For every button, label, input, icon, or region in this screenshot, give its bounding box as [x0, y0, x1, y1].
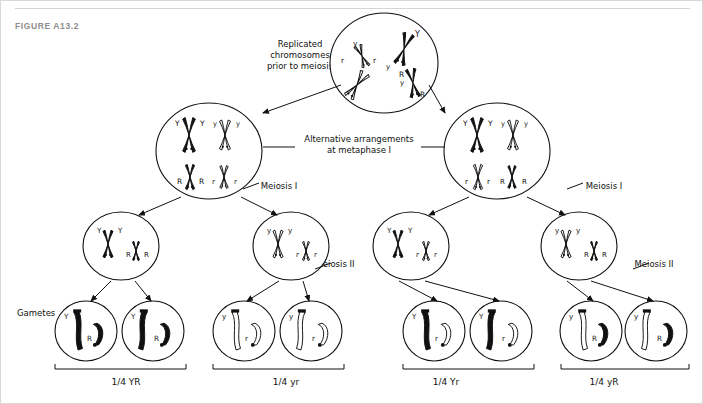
allele-label: y	[576, 226, 581, 235]
chromatid	[138, 309, 147, 350]
flow-arrow	[567, 281, 593, 301]
replicated-chromosome	[471, 118, 484, 153]
replicated-chromosome	[354, 44, 370, 68]
allele-label: R	[154, 334, 159, 343]
chromatid	[160, 323, 170, 347]
allele-label: y	[386, 63, 390, 71]
replicated-chromosome	[185, 164, 194, 189]
chromatid	[486, 309, 495, 350]
allele-label: r	[416, 251, 419, 259]
chromatid	[508, 323, 518, 347]
replicated-chromosome	[508, 166, 516, 189]
flow-arrow	[247, 281, 279, 301]
allele-label: y	[400, 79, 404, 87]
allele-label: r	[434, 251, 437, 259]
replicated-chromosome	[393, 32, 414, 66]
allele-label: R	[87, 334, 92, 343]
chromatid	[231, 309, 240, 350]
flow-arrow	[429, 197, 469, 215]
replicated-chromosome	[132, 241, 139, 260]
gamete-group-yr-cell: yr	[213, 301, 275, 361]
allele-label: R	[420, 90, 425, 99]
gametes-label: Gametes	[17, 308, 55, 318]
allele-label: R	[522, 178, 527, 186]
flow-arrow	[241, 197, 277, 215]
chromatid	[578, 309, 587, 350]
allele-label: R	[399, 70, 404, 79]
chromatid	[641, 309, 650, 350]
meiosis2-cell-1: YYRR	[83, 212, 159, 280]
replicated-chromosome	[422, 241, 429, 260]
allele-label: R	[592, 334, 597, 343]
ratio-label-yr-dom: 1/4 YR	[81, 377, 171, 387]
chromatid	[598, 323, 608, 347]
allele-label: y	[353, 39, 358, 48]
replicated-chromosome	[220, 120, 231, 150]
allele-label: y	[222, 312, 227, 321]
gamete-group-brace	[55, 364, 186, 369]
flow-arrow	[425, 281, 499, 301]
flow-arrow	[399, 281, 437, 301]
gamete-group-YR-cell: YR	[55, 301, 117, 361]
flow-arrow	[139, 197, 181, 215]
chromatid	[73, 309, 82, 350]
gamete-group-brace	[213, 364, 344, 369]
allele-label: y	[634, 312, 639, 321]
allele-label: r	[487, 177, 491, 186]
replicated-chromosome	[508, 120, 519, 150]
allele-label: y	[267, 226, 272, 235]
replicated-chromosome	[590, 241, 597, 260]
replicated-chromosome	[220, 166, 228, 189]
allele-label: Y	[411, 312, 417, 321]
allele-label: r	[314, 251, 317, 259]
allele-label: y	[555, 226, 560, 235]
allele-label: Y	[487, 119, 493, 128]
allele-label: r	[502, 334, 505, 343]
replicated-chromosome	[273, 230, 283, 258]
figure-page: FIGURE A13.2 Replicated chromosomes prio…	[0, 0, 703, 404]
allele-label: R	[126, 251, 131, 259]
chromatid	[93, 323, 103, 347]
allele-label: r	[296, 251, 299, 259]
replicated-chromosome	[561, 230, 571, 258]
gamete-group-brace	[561, 364, 689, 369]
allele-label: R	[602, 251, 607, 259]
chromatid	[251, 323, 261, 347]
flow-arrow	[303, 281, 309, 301]
chromatid	[318, 323, 328, 347]
chromatid	[421, 309, 430, 350]
meiosis-diagram: YyrrRRyyYYyyRRrrYYyyrrRRYYRRyyrrYYrryyRR…	[1, 1, 703, 404]
replicated-chromosome	[393, 230, 403, 258]
allele-label: Y	[414, 30, 420, 39]
allele-label: R	[500, 178, 505, 186]
meiosis2-cell-4: yyRR	[541, 212, 617, 280]
annotation-meiosis-one-right: Meiosis I	[576, 181, 632, 192]
ratio-label-yR: 1/4 yR	[559, 377, 649, 387]
allele-label: Y	[199, 119, 205, 128]
allele-label: Y	[462, 119, 468, 128]
allele-label: Y	[130, 312, 136, 321]
replicated-chromosome	[344, 70, 370, 101]
flow-arrow	[263, 85, 341, 113]
annotation-replicated-chromosomes: Replicated chromosomes prior to meiosis	[259, 39, 341, 72]
allele-label: r	[373, 56, 377, 65]
meiosis2-cell-3: YYrr	[373, 212, 449, 280]
allele-label: Y	[386, 226, 392, 235]
flow-arrow	[527, 197, 565, 215]
allele-label: Y	[478, 312, 484, 321]
top-divider	[15, 8, 690, 9]
allele-label: r	[245, 334, 248, 343]
metaphase-cell-left: YYyyRRrr	[156, 103, 262, 199]
annotation-meiosis-two-right: Meiosis II	[625, 259, 683, 270]
chromatid	[663, 323, 673, 347]
flow-arrow	[591, 281, 653, 301]
allele-label: y	[288, 226, 293, 235]
flow-arrow	[91, 281, 111, 301]
allele-label: y	[236, 120, 240, 128]
ratio-label-yr-rec: 1/4 yr	[241, 377, 331, 387]
replicated-chromosome	[183, 118, 196, 153]
allele-label: y	[289, 312, 294, 321]
allele-label: R	[199, 177, 204, 186]
replicated-chromosomes-cell: YyrrRRyy	[330, 13, 438, 113]
allele-label: r	[212, 178, 215, 186]
